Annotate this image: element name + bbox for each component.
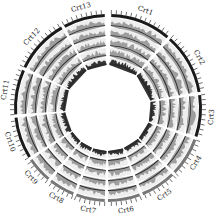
label-crt5: Crt5 [156, 187, 174, 202]
track-4 [48, 48, 168, 168]
circos-figure: Crt1Crt2Crt3Crt4Crt5Crt6Crt7Crt8Crt9Crt1… [0, 0, 216, 221]
label-crt13: Crt13 [70, 1, 92, 14]
label-crt11: Crt11 [0, 79, 11, 101]
label-crt9: Crt9 [23, 169, 40, 186]
track-5 [58, 58, 158, 158]
label-crt7: Crt7 [80, 204, 97, 215]
label-crt6: Crt6 [117, 205, 135, 216]
data-tracks [18, 18, 198, 198]
label-crt4: Crt4 [188, 154, 204, 172]
label-crt2: Crt2 [192, 49, 207, 67]
circos-plot: Crt1Crt2Crt3Crt4Crt5Crt6Crt7Crt8Crt9Crt1… [0, 0, 216, 221]
label-crt1: Crt1 [136, 4, 154, 17]
label-crt8: Crt8 [47, 190, 65, 205]
label-crt3: Crt3 [207, 109, 216, 126]
label-crt10: Crt10 [3, 131, 17, 153]
label-crt12: Crt12 [22, 27, 42, 47]
